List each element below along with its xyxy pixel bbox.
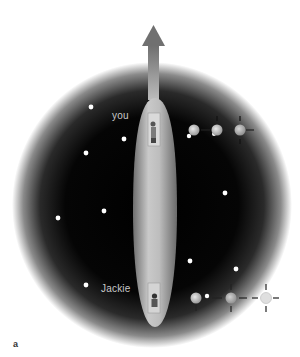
star [122, 137, 127, 142]
light-pulse [226, 293, 237, 304]
panel-label: a [13, 339, 18, 349]
star [84, 151, 89, 156]
star [56, 216, 61, 221]
light-pulse [189, 125, 200, 136]
label-you: you [112, 110, 129, 121]
observer-you-figure [148, 113, 160, 146]
light-pulse [235, 125, 246, 136]
label-jackie: Jackie [101, 283, 131, 294]
observer-jackie-figure [148, 283, 160, 313]
star [89, 105, 94, 110]
star [205, 294, 209, 298]
star [84, 283, 89, 288]
light-pulse [261, 293, 272, 304]
light-pulse [212, 125, 223, 136]
star [102, 209, 107, 214]
star [223, 191, 228, 196]
spacetime-diagram: you Jackie a [0, 0, 300, 357]
star [234, 267, 239, 272]
star [188, 259, 193, 264]
diagram-canvas [0, 0, 300, 357]
star [187, 134, 191, 138]
light-pulse [191, 293, 202, 304]
